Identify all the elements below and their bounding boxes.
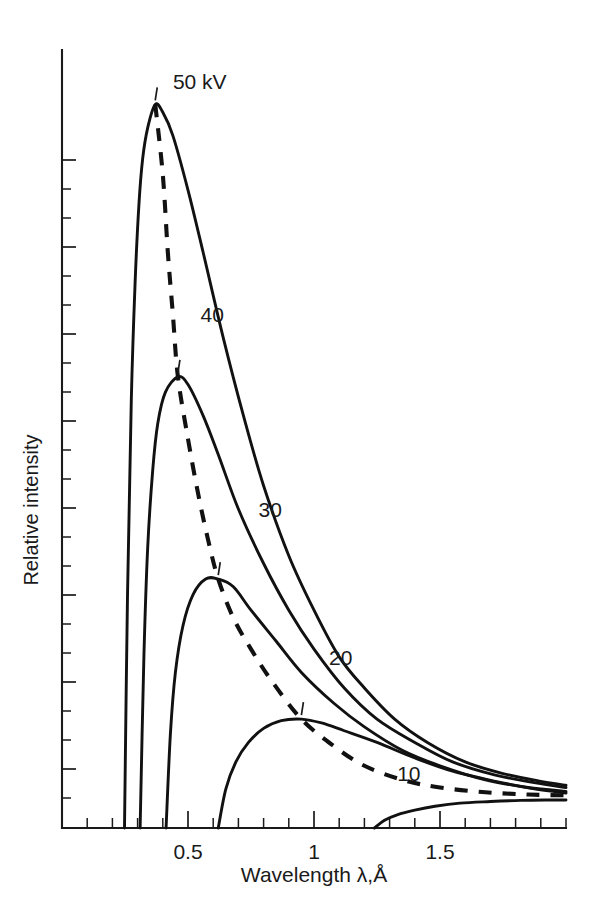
- peak-marker-50-kv: [155, 87, 157, 100]
- x-axis-tick-labels: 0.511.5: [173, 840, 454, 863]
- axes-group: [62, 50, 566, 828]
- chart-canvas: 0.511.5 50 kV40302010 Wavelength λ,Å Rel…: [0, 0, 591, 919]
- curve-label-10: 10: [397, 762, 420, 785]
- curve-label-20: 20: [329, 646, 352, 669]
- peak-marker-30: [218, 562, 220, 575]
- x-axis-title: Wavelength λ,Å: [241, 863, 387, 886]
- xray-continuous-spectrum-figure: 0.511.5 50 kV40302010 Wavelength λ,Å Rel…: [0, 0, 591, 919]
- spectrum-curve-40-kv: [140, 376, 566, 828]
- peak-marker-40: [178, 360, 180, 373]
- x-tick-label-1: 1: [308, 840, 320, 863]
- spectrum-curve-20-kv: [218, 719, 566, 828]
- spectrum-curves: [124, 104, 566, 828]
- x-tick-label-1.5: 1.5: [425, 840, 454, 863]
- peak-marker-20: [301, 702, 303, 715]
- curve-label-30: 30: [259, 498, 282, 521]
- curve-label-40: 40: [201, 303, 224, 326]
- curve-annotations: 50 kV40302010: [155, 70, 420, 785]
- x-tick-label-0.5: 0.5: [173, 840, 202, 863]
- x-axis-ticks: [87, 811, 566, 828]
- curve-label-50-kv: 50 kV: [173, 70, 227, 93]
- y-axis-title: Relative intensity: [20, 434, 42, 585]
- y-axis-ticks: [62, 160, 76, 798]
- spectrum-curve-10-kv: [374, 800, 566, 828]
